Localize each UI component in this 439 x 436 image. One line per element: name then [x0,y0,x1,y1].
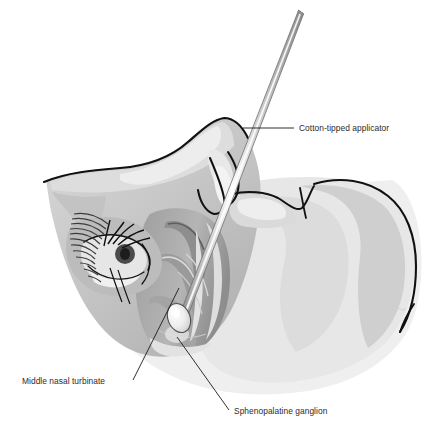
illustration-canvas: Cotton-tipped applicator Middle nasal tu… [0,0,439,436]
label-cotton-tipped-applicator: Cotton-tipped applicator [299,123,389,133]
pupil-core [120,248,130,260]
label-middle-nasal-turbinate: Middle nasal turbinate [22,376,105,386]
label-sphenopalatine-ganglion: Sphenopalatine ganglion [234,406,328,416]
medical-illustration-figure: Cotton-tipped applicator Middle nasal tu… [0,0,439,436]
